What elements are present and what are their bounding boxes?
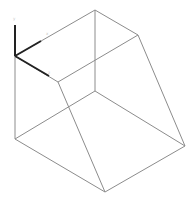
axis-triad: y x z: [13, 16, 50, 76]
z-axis-label: z: [48, 70, 50, 75]
z-axis: [15, 56, 49, 76]
shape-edge: [95, 10, 138, 35]
shape-edge: [95, 91, 185, 146]
shape-edge: [58, 82, 105, 192]
shape-edge: [138, 35, 185, 146]
wireframe-scene: y x z: [0, 0, 193, 200]
shape-edge: [15, 139, 105, 192]
x-axis-label: x: [46, 31, 49, 36]
shape-edge: [105, 146, 185, 192]
x-axis: [15, 41, 41, 56]
wireframe-shape: [15, 10, 185, 192]
shape-edge: [58, 35, 138, 82]
shape-edge: [15, 91, 95, 139]
y-axis-label: y: [13, 16, 16, 21]
3d-viewport[interactable]: y x z: [0, 0, 193, 200]
